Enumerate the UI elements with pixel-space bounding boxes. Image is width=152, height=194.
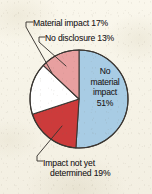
- slice-label-material-impact: Material impact 17%: [33, 18, 108, 28]
- slice-label-impact-not-yet-line2: determined 19%: [43, 168, 110, 178]
- slice-label-no-disclosure: No disclosure 13%: [45, 33, 114, 43]
- slice-label-no-material-impact: No material impact 51%: [83, 66, 127, 108]
- slice-label-no-material-impact-line2: material: [83, 77, 127, 88]
- leader-line-material-impact: [26, 22, 52, 73]
- slice-label-no-material-impact-line1: No: [83, 66, 127, 77]
- chart-area: Material impact 17% No disclosure 13% Im…: [0, 0, 152, 194]
- slice-label-impact-not-yet-determined: Impact not yet determined 19%: [43, 158, 110, 178]
- slice-label-no-material-impact-line3: impact: [83, 87, 127, 98]
- pie-chart-figure: Material impact 17% No disclosure 13% Im…: [0, 0, 152, 194]
- slice-label-no-material-impact-value: 51%: [83, 98, 127, 109]
- slice-label-impact-not-yet-line1: Impact not yet: [43, 158, 95, 168]
